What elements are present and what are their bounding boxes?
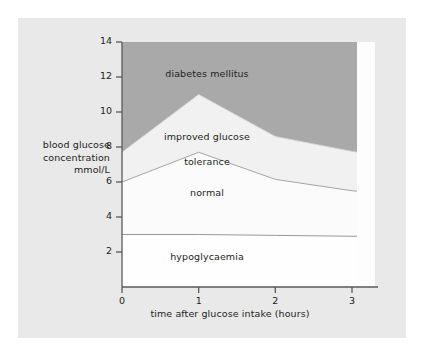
annotation-normal: normal <box>142 187 272 200</box>
x-axis-tick-marks <box>122 287 352 293</box>
y-axis-title-line-1: blood glucose <box>24 139 110 152</box>
x-tick-label: 2 <box>265 295 285 306</box>
annotation-igt-line-1: improved glucose <box>142 131 272 144</box>
y-tick-label: 14 <box>88 35 112 46</box>
y-tick-label: 12 <box>88 70 112 81</box>
chart-figure: 2468101214 0123 blood glucose concentrat… <box>0 0 421 353</box>
x-tick-label: 3 <box>342 295 362 306</box>
plot-right-margin-strip <box>357 42 375 287</box>
x-tick-label: 0 <box>112 295 132 306</box>
y-tick-label: 2 <box>88 245 112 256</box>
x-tick-label: 1 <box>189 295 209 306</box>
y-axis-title-line-3: mmol/L <box>24 164 110 177</box>
y-tick-label: 10 <box>88 105 112 116</box>
annotation-igt-line-2: tolerance <box>142 156 272 169</box>
y-axis-title-line-2: concentration <box>24 152 110 165</box>
annotation-hypoglycaemia: hypoglycaemia <box>132 251 282 264</box>
y-tick-label: 4 <box>88 210 112 221</box>
annotation-improved-glucose-tolerance: improved glucose tolerance <box>142 118 272 181</box>
x-axis-title: time after glucose intake (hours) <box>130 308 330 321</box>
annotation-diabetes-mellitus: diabetes mellitus <box>142 68 272 81</box>
y-axis-tick-marks <box>116 42 122 252</box>
y-tick-label: 6 <box>88 175 112 186</box>
y-axis-title: blood glucose concentration mmol/L <box>24 139 110 177</box>
